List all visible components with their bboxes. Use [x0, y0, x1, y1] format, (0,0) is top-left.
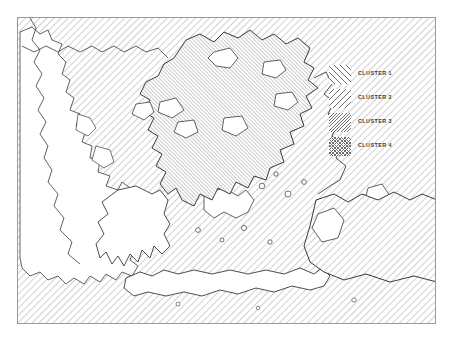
legend-swatch-cluster-1 — [329, 65, 351, 84]
aegean-island — [176, 302, 180, 306]
legend-label-cluster-1: CLUSTER 1 — [358, 70, 392, 76]
legend-item-cluster-3[interactable]: CLUSTER 3 — [329, 113, 434, 137]
legend-label-cluster-2: CLUSTER 2 — [358, 94, 392, 100]
legend-label-cluster-4: CLUSTER 4 — [358, 142, 392, 148]
legend-item-cluster-4[interactable]: CLUSTER 4 — [329, 137, 434, 161]
legend-item-cluster-1[interactable]: CLUSTER 1 — [329, 65, 434, 89]
legend-swatch-cluster-3 — [329, 113, 351, 132]
aegean-island — [268, 240, 272, 244]
legend-swatch-cluster-2 — [329, 89, 351, 108]
aegean-island — [285, 191, 291, 197]
legend-swatch-cluster-4 — [329, 137, 351, 156]
map-canvas — [18, 18, 436, 324]
aegean-island — [256, 306, 260, 310]
aegean-island — [352, 298, 356, 302]
aegean-island — [196, 228, 201, 233]
legend-item-cluster-2[interactable]: CLUSTER 2 — [329, 89, 434, 113]
aegean-island — [274, 172, 278, 176]
aegean-island — [220, 238, 224, 242]
aegean-island — [302, 180, 307, 185]
aegean-island — [241, 225, 246, 230]
aegean-island — [259, 183, 265, 189]
legend-label-cluster-3: CLUSTER 3 — [358, 118, 392, 124]
map-frame: CLUSTER 1 CLUSTER 2 CLUSTER 3 CLUSTER 4 — [17, 17, 436, 324]
legend: CLUSTER 1 CLUSTER 2 CLUSTER 3 CLUSTER 4 — [329, 65, 434, 161]
cluster-map-page: CLUSTER 1 CLUSTER 2 CLUSTER 3 CLUSTER 4 — [0, 0, 453, 359]
